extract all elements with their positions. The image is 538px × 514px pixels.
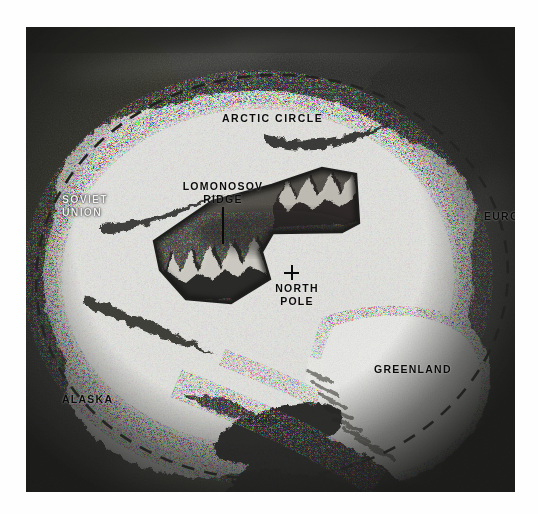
arctic-photo-plate: ARCTIC CIRCLE SOVIET UNION EUROPE ALASKA… <box>26 27 515 492</box>
halftone-grain <box>26 27 515 492</box>
figure-page: ARCTIC CIRCLE SOVIET UNION EUROPE ALASKA… <box>0 0 538 514</box>
arctic-map-illustration <box>26 27 515 492</box>
